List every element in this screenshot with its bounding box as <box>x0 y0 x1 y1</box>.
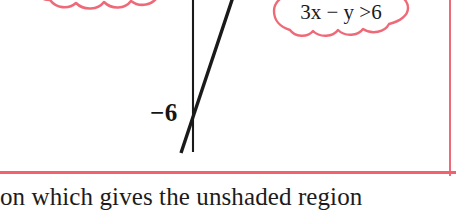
axis-label-minus-six: −6 <box>150 99 178 127</box>
callout-bubble-left <box>26 0 184 12</box>
figure-box: −6 3x − y >6 <box>0 0 456 176</box>
frame-border-bottom <box>0 171 456 174</box>
page-root: −6 3x − y >6 on which gives the unshaded… <box>0 0 456 215</box>
cloud-outline-left-icon <box>26 0 184 12</box>
frame-border-right <box>449 0 451 176</box>
boundary-line <box>181 0 234 153</box>
callout-bubble-right: 3x − y >6 <box>268 0 414 38</box>
body-paragraph: on which gives the unshaded region <box>0 182 456 212</box>
inequality-text: 3x − y >6 <box>300 0 381 24</box>
inequality-expression: 3x − y >6 <box>268 0 414 24</box>
